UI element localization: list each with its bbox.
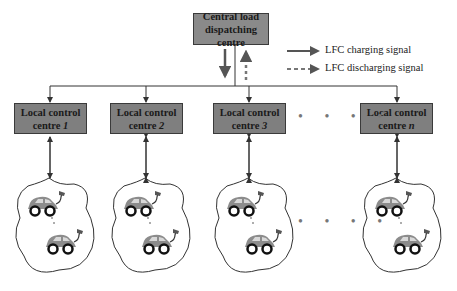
central-line2: dispatching centre xyxy=(194,23,268,49)
legend-charging-label: LFC charging signal xyxy=(325,44,411,55)
ev-cluster-1 xyxy=(16,178,94,272)
central-load-dispatching-centre: Central load dispatching centre xyxy=(193,13,269,45)
local-line1: Local control xyxy=(111,106,182,119)
local-line2: centre 2 xyxy=(111,119,182,132)
local-line1: Local control xyxy=(15,106,86,119)
ellipsis-clusters: • • • • xyxy=(298,214,391,230)
local-line2: centre 3 xyxy=(214,119,285,132)
central-line1: Central load xyxy=(194,10,268,23)
local-control-centre-2: Local control centre 2 xyxy=(110,103,183,134)
ev-cluster-2 xyxy=(112,178,190,272)
local-line1: Local control xyxy=(214,106,285,119)
local-control-centre-1: Local control centre 1 xyxy=(14,103,87,134)
local-line2: centre 1 xyxy=(15,119,86,132)
ellipsis-centres: • • • • xyxy=(298,109,391,125)
ev-cluster-3 xyxy=(215,178,293,272)
local-control-centre-3: Local control centre 3 xyxy=(213,103,286,134)
legend-discharging-label: LFC discharging signal xyxy=(325,62,423,73)
